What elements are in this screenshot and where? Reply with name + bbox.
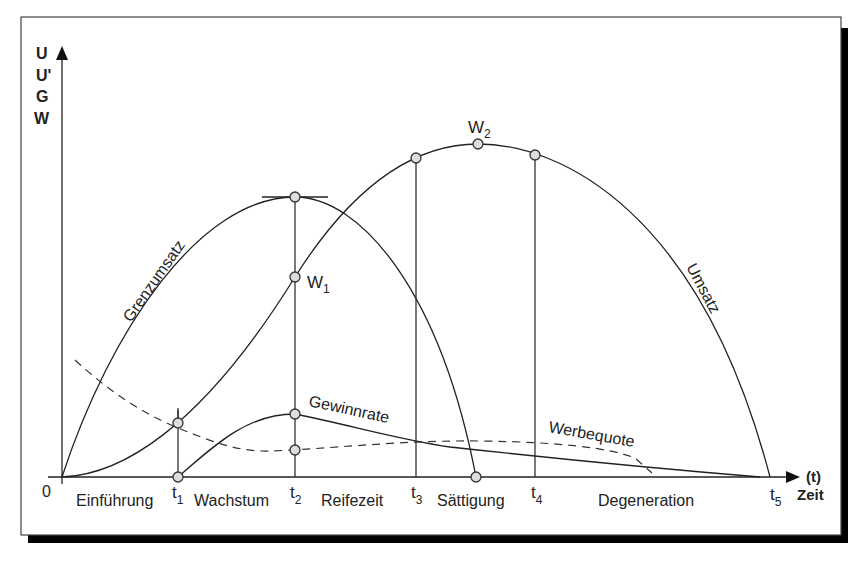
phase-degeneration: Degeneration xyxy=(598,492,694,509)
x-label-zeit: Zeit xyxy=(797,486,824,503)
y-label-u-prime: U' xyxy=(36,67,51,84)
phase-reifezeit: Reifezeit xyxy=(321,492,384,509)
point-werbequote-t2 xyxy=(290,445,300,455)
point-gewinnrate-max xyxy=(290,409,300,419)
y-label-u: U xyxy=(36,45,48,62)
frame xyxy=(21,17,841,535)
point-t1-axis xyxy=(173,472,183,482)
product-lifecycle-diagram: U U' G W (t) Zeit 0 W1 W2 xyxy=(0,0,862,562)
y-label-w: W xyxy=(34,110,50,127)
point-t3-umsatz xyxy=(411,153,421,163)
point-t4-umsatz xyxy=(530,150,540,160)
origin-label: 0 xyxy=(42,483,51,500)
x-label-t: (t) xyxy=(806,468,821,485)
phase-einfuehrung: Einführung xyxy=(76,492,153,509)
point-t1-umsatz xyxy=(173,418,183,428)
y-label-g: G xyxy=(36,88,48,105)
point-w2 xyxy=(473,139,483,149)
point-grenzumsatz-zero xyxy=(471,472,481,482)
point-w1 xyxy=(290,272,300,282)
phase-saettigung: Sättigung xyxy=(437,492,505,509)
point-grenzumsatz-max xyxy=(290,192,300,202)
phase-wachstum: Wachstum xyxy=(194,492,269,509)
